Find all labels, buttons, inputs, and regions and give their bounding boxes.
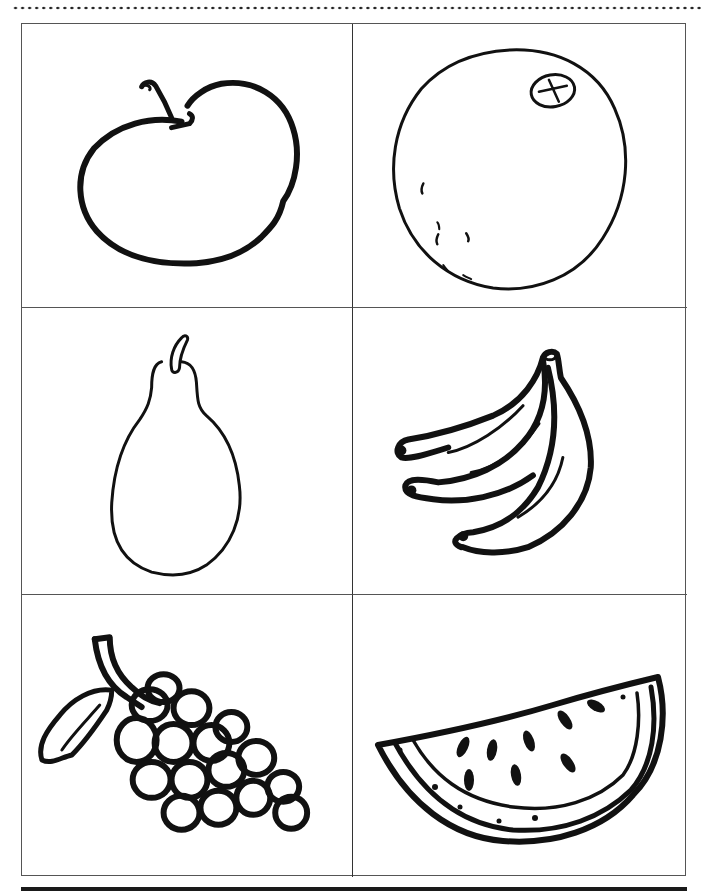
dotted-cut-line xyxy=(12,6,703,10)
watermelon-slice-icon xyxy=(353,595,687,877)
orange-icon xyxy=(353,24,687,307)
card-pear: pear xyxy=(22,308,353,595)
grape-bunch-icon xyxy=(22,595,352,877)
fruit-card-grid: apple orange xyxy=(21,23,686,876)
apple-icon xyxy=(22,24,352,307)
bottom-rule xyxy=(21,887,687,891)
banana-bunch-icon xyxy=(353,308,687,594)
card-apple: apple xyxy=(22,24,353,308)
card-grapes: grapes xyxy=(22,595,353,877)
pear-icon xyxy=(22,308,352,594)
card-watermelon: watermelon xyxy=(353,595,687,877)
card-bananas: bananas xyxy=(353,308,687,595)
card-orange: orange xyxy=(353,24,687,308)
